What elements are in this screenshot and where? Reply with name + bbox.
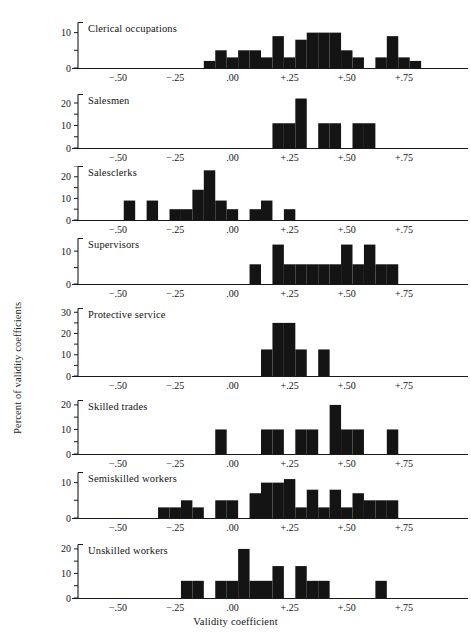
y-tick-label: 10: [61, 349, 71, 360]
y-tick-label: 0: [66, 279, 71, 290]
y-tick-label: 0: [66, 593, 71, 604]
histogram-bar: [238, 549, 249, 598]
y-tick-label: 20: [61, 98, 71, 109]
x-tick-label: +.50: [338, 458, 356, 469]
panel-unskilled-workers: 01020−.50−.25.00+.25+.50+.75Unskilled wo…: [0, 544, 471, 622]
histogram-bar: [215, 429, 226, 454]
histogram-bar: [181, 581, 192, 598]
x-tick-label: −.50: [109, 380, 127, 391]
histogram-bar: [387, 264, 398, 284]
x-tick-label: −.50: [109, 152, 127, 163]
x-tick-label: −.25: [166, 224, 184, 235]
x-tick-label: +.50: [338, 72, 356, 83]
histogram-bar: [307, 429, 318, 454]
histogram-bar: [295, 264, 306, 284]
x-tick-label: −.50: [109, 602, 127, 613]
histogram-bar: [318, 264, 329, 284]
x-tick-label: +.75: [395, 152, 413, 163]
x-tick-label: +.25: [281, 152, 299, 163]
bars-group: [181, 549, 387, 598]
x-tick-label: .00: [226, 522, 239, 533]
x-tick-label: +.50: [338, 522, 356, 533]
panel-plot: 010−.50−.25.00+.25+.50+.75: [0, 238, 471, 308]
histogram-bar: [272, 123, 283, 148]
histogram-bar: [261, 201, 272, 220]
y-tick-label: 0: [66, 371, 71, 382]
histogram-bar: [192, 507, 203, 518]
bars-group: [250, 245, 399, 284]
x-tick-label: +.75: [395, 224, 413, 235]
x-tick-label: −.25: [166, 152, 184, 163]
bars-group: [272, 99, 375, 149]
x-tick-label: +.25: [281, 288, 299, 299]
histogram-bar: [192, 190, 203, 220]
histogram-bar: [318, 507, 329, 518]
histogram-bar: [295, 507, 306, 518]
histogram-bar: [307, 264, 318, 284]
histogram-bar: [215, 500, 226, 518]
y-tick-label: 0: [66, 215, 71, 226]
histogram-bar: [261, 429, 272, 454]
panel-plot: 01020−.50−.25.00+.25+.50+.75: [0, 166, 471, 244]
histogram-bar: [318, 581, 329, 598]
bars-group: [215, 405, 398, 454]
histogram-bar: [398, 57, 409, 68]
x-tick-label: −.25: [166, 72, 184, 83]
panel-clerical-occupations: 010−.50−.25.00+.25+.50+.75Clerical occup…: [0, 22, 471, 92]
panel-salesclerks: 01020−.50−.25.00+.25+.50+.75Salesclerks: [0, 166, 471, 244]
histogram-bar: [170, 507, 181, 518]
histogram-bar: [364, 123, 375, 148]
histogram-bar: [295, 429, 306, 454]
histogram-bar: [295, 566, 306, 598]
histogram-bar: [272, 245, 283, 284]
histogram-bar: [364, 245, 375, 284]
x-tick-label: −.50: [109, 224, 127, 235]
x-tick-label: +.50: [338, 152, 356, 163]
y-tick-label: 10: [61, 120, 71, 131]
y-tick-label: 10: [61, 477, 71, 488]
histogram-bar: [250, 581, 261, 598]
histogram-bar: [318, 123, 329, 148]
panel-title: Protective service: [88, 309, 166, 320]
x-tick-label: +.50: [338, 224, 356, 235]
histogram-bar: [387, 429, 398, 454]
histogram-bar: [227, 57, 238, 68]
histogram-bar: [250, 264, 261, 284]
histogram-bar: [181, 209, 192, 220]
histogram-bar: [307, 33, 318, 68]
histogram-bar: [215, 50, 226, 68]
panel-protective-service: 0102030−.50−.25.00+.25+.50+.75Protective…: [0, 308, 471, 400]
y-tick-label: 30: [61, 308, 71, 318]
y-tick-label: 0: [66, 513, 71, 524]
histogram-bar: [353, 57, 364, 68]
histogram-bar: [318, 33, 329, 68]
x-tick-label: +.50: [338, 380, 356, 391]
panel-plot: 010−.50−.25.00+.25+.50+.75: [0, 472, 471, 542]
panel-supervisors: 010−.50−.25.00+.25+.50+.75Supervisors: [0, 238, 471, 308]
x-tick-label: +.75: [395, 288, 413, 299]
histogram-bar: [261, 349, 272, 376]
histogram-bar: [375, 57, 386, 68]
histogram-bar: [318, 349, 329, 376]
histogram-bar: [387, 36, 398, 68]
histogram-bar: [215, 581, 226, 598]
x-tick-label: +.25: [281, 458, 299, 469]
x-tick-label: +.25: [281, 72, 299, 83]
panel-plot: 0102030−.50−.25.00+.25+.50+.75: [0, 308, 471, 400]
x-tick-label: −.50: [109, 458, 127, 469]
y-tick-label: 20: [61, 544, 71, 554]
bars-group: [204, 33, 421, 68]
histogram-bar: [341, 245, 352, 284]
x-tick-label: +.25: [281, 224, 299, 235]
x-tick-label: −.25: [166, 602, 184, 613]
histogram-bar: [341, 50, 352, 68]
histogram-bar: [204, 170, 215, 220]
histogram-bar: [353, 429, 364, 454]
x-tick-label: .00: [226, 152, 239, 163]
x-tick-label: .00: [226, 458, 239, 469]
histogram-bar: [272, 429, 283, 454]
histogram-bar: [307, 581, 318, 598]
histogram-bar: [330, 123, 341, 148]
x-tick-label: +.25: [281, 602, 299, 613]
histogram-bar: [261, 483, 272, 518]
